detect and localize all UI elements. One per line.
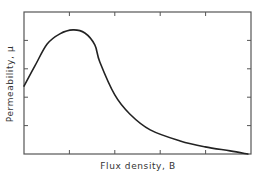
axis-ticks	[24, 12, 251, 154]
permeability-chart: Flux density, B Permeability, μ	[0, 0, 259, 176]
plot-frame	[24, 12, 251, 154]
chart-canvas: Flux density, B Permeability, μ	[0, 0, 259, 176]
y-axis-label: Permeability, μ	[5, 46, 15, 123]
x-axis-label: Flux density, B	[100, 161, 175, 171]
permeability-curve	[24, 30, 248, 154]
